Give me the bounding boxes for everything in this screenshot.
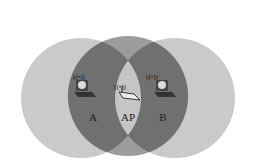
svg-text:((•)): ((•)) <box>114 83 126 91</box>
hidden-node-diagram: ((•)) ((•)) ((•)) A AP B <box>0 0 256 161</box>
wireless-signal-icon: ((•)) <box>146 73 158 81</box>
svg-text:((•)): ((•)) <box>146 73 158 81</box>
label-b: B <box>159 111 166 123</box>
label-ap: AP <box>121 111 135 123</box>
label-a: A <box>89 111 97 123</box>
wireless-signal-icon: ((•)) <box>73 73 85 81</box>
wireless-signal-icon: ((•)) <box>114 83 126 91</box>
svg-text:((•)): ((•)) <box>73 73 85 81</box>
